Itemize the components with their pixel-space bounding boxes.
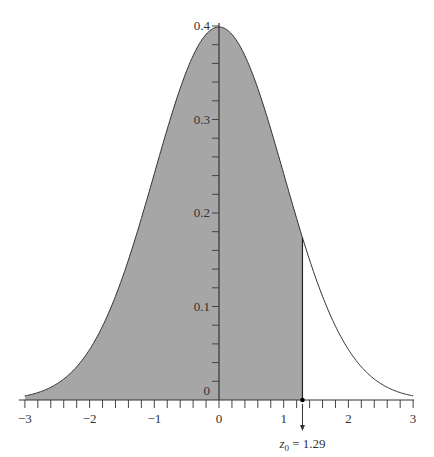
y-tick-label: 0.4 — [194, 18, 211, 33]
x-axis: −3−2−10123 — [18, 400, 416, 426]
cutoff-point — [300, 398, 305, 403]
y-tick-label: 0 — [204, 383, 211, 398]
arrow-down-icon — [300, 404, 305, 431]
shaded-area — [25, 27, 303, 400]
cutoff-label: z0 = 1.29 — [278, 436, 325, 453]
normal-distribution-chart: −3−2−10123 00.10.20.30.4 z0 = 1.29 — [0, 0, 434, 457]
x-tick-label: −1 — [147, 411, 161, 426]
x-tick-label: 0 — [216, 411, 223, 426]
x-tick-label: −3 — [18, 411, 32, 426]
y-tick-label: 0.1 — [194, 299, 210, 314]
y-tick-label: 0.3 — [194, 112, 210, 127]
x-tick-label: 2 — [345, 411, 352, 426]
x-tick-label: −2 — [83, 411, 97, 426]
x-tick-label: 1 — [280, 411, 287, 426]
y-tick-label: 0.2 — [194, 205, 210, 220]
x-tick-label: 3 — [410, 411, 417, 426]
